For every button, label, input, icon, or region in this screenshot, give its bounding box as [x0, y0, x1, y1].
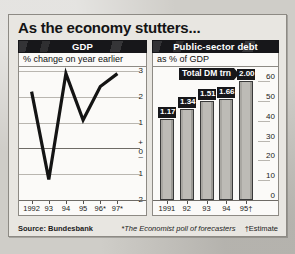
debt-bar: [180, 109, 194, 200]
scanned-page: As the economy stutters... GDP % change …: [0, 0, 295, 254]
panel-gdp-subtitle: % change on year earlier: [18, 53, 147, 67]
debt-y-axis-label: 60: [263, 73, 275, 81]
debt-y-axis-label: 0: [263, 192, 275, 200]
chart-figure: As the economy stutters... GDP % change …: [8, 14, 287, 237]
debt-bar-value-label: 1.51: [198, 89, 216, 100]
debt-x-axis-label: 95†: [233, 205, 259, 213]
debt-y-axis-label: 40: [263, 113, 275, 121]
debt-y-axis-label: 50: [263, 93, 275, 101]
panel-debt: Public-sector debt as % of GDP 605040302…: [152, 40, 279, 216]
debt-y-axis-label: 30: [263, 133, 275, 141]
panel-debt-subtitle: as % of GDP: [152, 53, 279, 67]
footnote-forecasters: *The Economist poll of forecasters: [121, 224, 235, 233]
source-note: Source: Bundesbank: [18, 224, 93, 233]
debt-gridline: [258, 180, 270, 181]
gdp-line-chart: 321012+–199293949596*97*: [18, 67, 147, 216]
debt-bar: [160, 119, 174, 200]
debt-gridline: [258, 101, 270, 102]
panel-debt-title: Public-sector debt: [153, 41, 278, 53]
debt-bar-value-label: 1.66: [217, 87, 235, 98]
debt-bar: [219, 99, 233, 200]
panel-gdp: GDP % change on year earlier 321012+–199…: [18, 40, 147, 216]
debt-bar: [200, 101, 214, 200]
debt-y-axis-label: 20: [263, 152, 275, 160]
panel-debt-header: Public-sector debt: [152, 40, 279, 53]
debt-bar-chart: 60504030201001.1719911.34921.51931.66942…: [152, 67, 279, 216]
debt-gridline: [258, 160, 270, 161]
debt-gridline: [258, 141, 270, 142]
debt-gridline: [258, 121, 270, 122]
debt-total-callout: Total DM trn: [179, 68, 234, 80]
panel-gdp-header: GDP: [18, 40, 147, 53]
debt-bar-value-label: 1.17: [158, 107, 176, 118]
debt-bar: [239, 81, 253, 200]
footnotes: *The Economist poll of forecasters †Esti…: [121, 224, 278, 233]
panel-gdp-title: GDP: [19, 41, 146, 53]
footnote-estimate: †Estimate: [245, 224, 278, 233]
debt-y-axis-label: 10: [263, 172, 275, 180]
gdp-line-series: [19, 67, 146, 214]
page-title: As the economy stutters...: [18, 19, 200, 36]
debt-bar-value-label: 1.34: [178, 97, 196, 108]
debt-gridline: [258, 81, 270, 82]
debt-bar-value-label: 2.00: [237, 69, 255, 80]
